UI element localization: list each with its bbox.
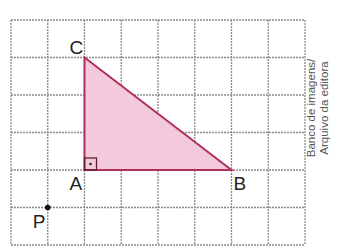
right-angle-dot	[89, 163, 92, 166]
image-credit: Banco de imagens/ Arquivo da editora	[305, 59, 331, 157]
label-b: B	[234, 173, 247, 194]
label-a: A	[70, 173, 83, 194]
credit-line-2: Arquivo da editora	[318, 59, 331, 157]
geometry-figure: C A B P	[0, 0, 346, 250]
point-p	[45, 205, 51, 211]
label-c: C	[70, 37, 84, 58]
label-p: P	[33, 211, 46, 232]
credit-line-1: Banco de imagens/	[305, 59, 318, 157]
